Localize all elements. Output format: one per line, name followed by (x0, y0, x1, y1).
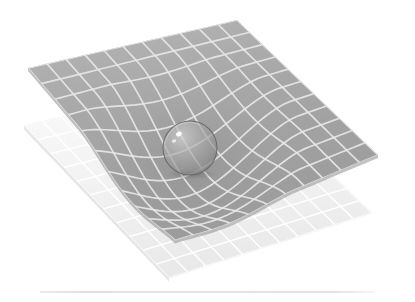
spacetime-curvature-figure (0, 0, 415, 302)
mass-sphere (163, 121, 217, 175)
bottom-divider (40, 292, 375, 293)
sphere-body (163, 121, 217, 175)
